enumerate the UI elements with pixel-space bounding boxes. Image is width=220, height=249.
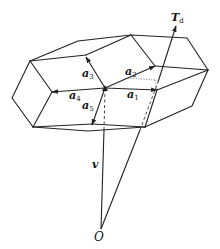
lattice-diagram: a1 a2 a3 a4 a5 Td v O [0, 0, 220, 249]
label-a5: a5 [82, 99, 94, 113]
label-Td: Td [171, 11, 184, 25]
vector-a4 [52, 88, 105, 92]
vector-a5 [92, 88, 105, 125]
label-a1: a1 [127, 88, 139, 102]
labels: a1 a2 a3 a4 a5 Td v O [69, 11, 184, 244]
vector-v [101, 85, 108, 229]
label-origin-O: O [94, 230, 104, 244]
label-v: v [92, 158, 99, 171]
label-a3: a3 [82, 67, 94, 81]
polyhedron-outline [12, 35, 208, 131]
label-a4: a4 [69, 89, 81, 103]
label-a2: a2 [125, 65, 137, 79]
